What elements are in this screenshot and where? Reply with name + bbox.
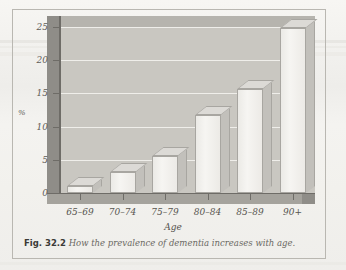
x-tick-label: 70–74 xyxy=(109,207,136,217)
bar-front-face xyxy=(195,115,221,193)
bar-front-face xyxy=(67,186,93,193)
bar xyxy=(110,172,136,193)
figure-caption-text: How the prevalence of dementia increases… xyxy=(69,238,296,248)
bar-front-face xyxy=(110,172,136,193)
plot-3d-box: 0510152025 65–6970–7475–7980–8485–8990+ xyxy=(47,16,315,204)
x-tick: 75–79 xyxy=(165,194,166,200)
y-tick-label: 10 xyxy=(37,122,48,132)
bar-series xyxy=(60,27,315,193)
x-axis-line xyxy=(47,193,315,194)
x-axis-title: Age xyxy=(0,222,346,232)
x-tick-label: 80–84 xyxy=(194,207,221,217)
bar-side-face xyxy=(178,149,187,193)
x-tick: 85–89 xyxy=(250,194,251,200)
x-tick-label: 85–89 xyxy=(236,207,263,217)
y-tick: 20 xyxy=(53,60,60,61)
plot-floor xyxy=(47,193,302,204)
figure-caption-label: Fig. 32.2 xyxy=(24,238,66,248)
chart-plot-area: 0510152025 65–6970–7475–7980–8485–8990+ xyxy=(47,16,315,204)
y-tick: 25 xyxy=(53,27,60,28)
y-tick: 10 xyxy=(53,127,60,128)
bar-front-face xyxy=(280,28,306,193)
x-tick-label: 90+ xyxy=(283,207,302,217)
y-tick-label: 15 xyxy=(37,88,48,98)
figure-caption: Fig. 32.2 How the prevalence of dementia… xyxy=(24,239,322,249)
bar xyxy=(195,115,221,193)
bar-front-face xyxy=(237,89,263,193)
y-tick-label: 5 xyxy=(42,155,48,165)
bar-side-face xyxy=(263,82,272,193)
x-tick: 70–74 xyxy=(123,194,124,200)
bar-side-face xyxy=(306,21,315,193)
y-axis-title: % xyxy=(18,108,26,117)
y-tick-label: 20 xyxy=(37,55,48,65)
x-tick-label: 65–69 xyxy=(66,207,93,217)
bar xyxy=(67,186,93,193)
x-tick-label: 75–79 xyxy=(151,207,178,217)
y-tick: 5 xyxy=(53,160,60,161)
bar xyxy=(237,89,263,193)
x-tick: 65–69 xyxy=(80,194,81,200)
plot-floor-right xyxy=(302,193,315,204)
bar xyxy=(280,28,306,193)
y-tick: 15 xyxy=(53,93,60,94)
bar-front-face xyxy=(152,156,178,193)
bar-side-face xyxy=(221,108,230,193)
x-tick: 90+ xyxy=(293,194,294,200)
plot-top-wall xyxy=(60,16,315,27)
y-tick-label: 25 xyxy=(37,22,48,32)
bar xyxy=(152,156,178,193)
x-tick: 80–84 xyxy=(208,194,209,200)
